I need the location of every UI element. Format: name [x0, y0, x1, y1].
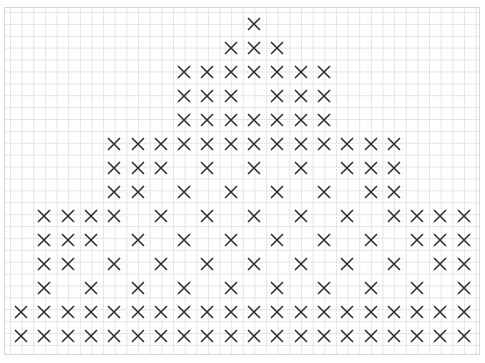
- x-mark-icon: [246, 160, 262, 176]
- x-mark-icon: [456, 328, 472, 344]
- x-mark-icon: [199, 136, 215, 152]
- x-mark-icon: [386, 256, 402, 272]
- x-mark-icon: [293, 304, 309, 320]
- x-mark-icon: [363, 280, 379, 296]
- x-mark-icon: [293, 328, 309, 344]
- x-mark-icon: [199, 328, 215, 344]
- x-mark-icon: [176, 136, 192, 152]
- x-mark-icon: [199, 304, 215, 320]
- x-mark-icon: [199, 112, 215, 128]
- x-mark-icon: [432, 328, 448, 344]
- x-mark-icon: [153, 256, 169, 272]
- x-mark-icon: [409, 208, 425, 224]
- x-mark-icon: [130, 160, 146, 176]
- x-mark-icon: [293, 64, 309, 80]
- x-mark-icon: [130, 280, 146, 296]
- x-mark-icon: [83, 304, 99, 320]
- x-mark-icon: [199, 160, 215, 176]
- x-mark-icon: [386, 208, 402, 224]
- x-mark-icon: [153, 328, 169, 344]
- x-mark-icon: [223, 280, 239, 296]
- x-mark-icon: [199, 88, 215, 104]
- x-mark-icon: [153, 304, 169, 320]
- x-mark-icon: [316, 64, 332, 80]
- x-mark-icon: [199, 208, 215, 224]
- x-mark-icon: [339, 256, 355, 272]
- x-mark-icon: [36, 328, 52, 344]
- x-mark-icon: [176, 184, 192, 200]
- x-mark-icon: [316, 88, 332, 104]
- x-mark-icon: [269, 328, 285, 344]
- x-mark-icon: [269, 112, 285, 128]
- x-mark-icon: [83, 328, 99, 344]
- x-mark-icon: [199, 256, 215, 272]
- x-mark-icon: [106, 184, 122, 200]
- x-mark-icon: [130, 232, 146, 248]
- x-mark-icon: [176, 280, 192, 296]
- x-mark-icon: [176, 88, 192, 104]
- x-mark-icon: [246, 208, 262, 224]
- x-mark-icon: [60, 304, 76, 320]
- x-mark-icon: [316, 112, 332, 128]
- x-mark-icon: [60, 208, 76, 224]
- x-mark-icon: [83, 232, 99, 248]
- x-mark-icon: [13, 304, 29, 320]
- x-mark-icon: [36, 232, 52, 248]
- x-mark-icon: [246, 256, 262, 272]
- x-mark-icon: [456, 256, 472, 272]
- x-mark-icon: [386, 160, 402, 176]
- x-mark-icon: [246, 328, 262, 344]
- x-mark-icon: [176, 304, 192, 320]
- x-mark-icon: [363, 160, 379, 176]
- x-mark-icon: [316, 136, 332, 152]
- x-mark-icon: [83, 208, 99, 224]
- x-mark-icon: [106, 160, 122, 176]
- x-mark-icon: [269, 184, 285, 200]
- x-mark-icon: [176, 64, 192, 80]
- x-mark-icon: [36, 304, 52, 320]
- x-mark-icon: [432, 208, 448, 224]
- x-mark-icon: [106, 208, 122, 224]
- x-mark-icon: [223, 136, 239, 152]
- x-mark-icon: [223, 112, 239, 128]
- x-mark-icon: [316, 280, 332, 296]
- x-mark-icon: [60, 256, 76, 272]
- x-mark-icon: [339, 136, 355, 152]
- x-mark-icon: [386, 304, 402, 320]
- x-mark-icon: [316, 328, 332, 344]
- x-mark-icon: [106, 328, 122, 344]
- x-mark-icon: [409, 304, 425, 320]
- x-mark-icon: [223, 184, 239, 200]
- x-mark-icon: [363, 232, 379, 248]
- x-mark-icon: [269, 88, 285, 104]
- x-mark-icon: [269, 280, 285, 296]
- x-mark-icon: [153, 160, 169, 176]
- x-mark-icon: [106, 256, 122, 272]
- x-mark-icon: [339, 160, 355, 176]
- x-mark-icon: [246, 304, 262, 320]
- x-mark-icon: [293, 256, 309, 272]
- x-mark-icon: [316, 232, 332, 248]
- x-mark-icon: [130, 328, 146, 344]
- x-mark-icon: [246, 64, 262, 80]
- x-mark-icon: [409, 280, 425, 296]
- x-mark-icon: [176, 328, 192, 344]
- x-mark-icon: [130, 304, 146, 320]
- x-mark-icon: [293, 88, 309, 104]
- x-mark-icon: [363, 304, 379, 320]
- x-mark-icon: [176, 112, 192, 128]
- x-mark-icon: [269, 232, 285, 248]
- x-mark-icon: [223, 40, 239, 56]
- x-mark-icon: [339, 304, 355, 320]
- x-mark-icon: [293, 136, 309, 152]
- x-mark-icon: [106, 136, 122, 152]
- x-mark-icon: [432, 232, 448, 248]
- x-mark-icon: [269, 64, 285, 80]
- x-mark-icon: [246, 40, 262, 56]
- x-mark-icon: [36, 256, 52, 272]
- x-mark-icon: [223, 328, 239, 344]
- x-mark-icon: [293, 208, 309, 224]
- x-mark-icon: [269, 136, 285, 152]
- x-mark-icon: [60, 328, 76, 344]
- x-mark-icon: [223, 64, 239, 80]
